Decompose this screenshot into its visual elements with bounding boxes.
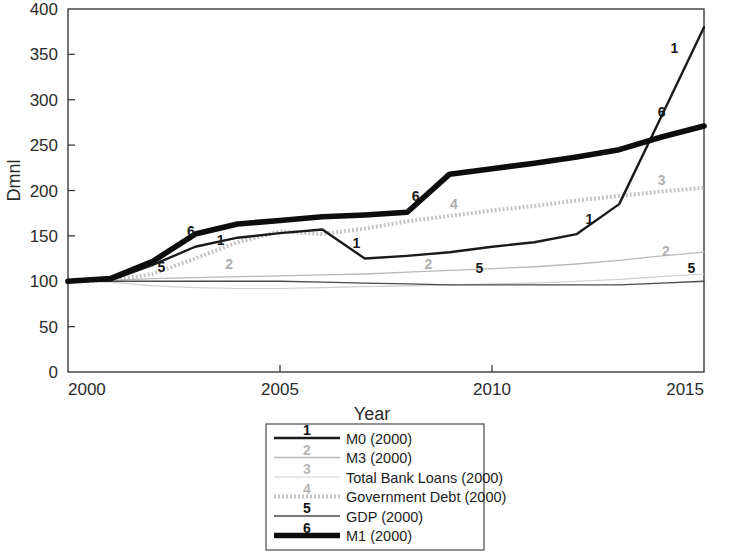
- inline-series-label-2: 2: [225, 256, 233, 272]
- plot-area: [68, 9, 704, 372]
- legend-label-1: M0 (2000): [346, 431, 412, 447]
- inline-series-label-2: 2: [425, 256, 433, 272]
- legend-number-4: 4: [303, 481, 311, 497]
- legend-number-5: 5: [303, 500, 311, 516]
- y-tick-label: 150: [30, 227, 58, 246]
- legend-number-6: 6: [303, 520, 311, 536]
- legend-number-3: 3: [303, 461, 311, 477]
- line-chart: 615264125136125 050100150200250300350400…: [0, 0, 741, 554]
- chart-figure: 615264125136125 050100150200250300350400…: [0, 0, 741, 554]
- legend-label-4: Government Debt (2000): [346, 489, 506, 505]
- legend-label-3: Total Bank Loans (2000): [346, 470, 503, 486]
- x-axis-title: Year: [354, 404, 390, 424]
- y-tick-label: 50: [39, 318, 58, 337]
- inline-series-label-4: 4: [450, 196, 458, 212]
- inline-series-label-6: 6: [187, 223, 195, 239]
- y-tick-label: 300: [30, 91, 58, 110]
- x-tick-label: 2015: [666, 380, 704, 399]
- inline-series-label-5: 5: [687, 260, 695, 276]
- y-axis-title: Dmnl: [4, 159, 24, 201]
- inline-series-label-5: 5: [475, 260, 483, 276]
- series-line-5: [68, 281, 704, 285]
- chart-legend: 1M0 (2000)2M3 (2000)3Total Bank Loans (2…: [266, 422, 506, 550]
- y-tick-label: 200: [30, 182, 58, 201]
- inline-series-label-1: 1: [670, 40, 678, 56]
- y-tick-label: 0: [49, 363, 58, 382]
- inline-series-label-6: 6: [412, 188, 420, 204]
- x-tick-label: 2010: [473, 380, 511, 399]
- legend-label-2: M3 (2000): [346, 450, 412, 466]
- legend-number-1: 1: [303, 422, 311, 438]
- x-tick-label: 2005: [261, 380, 299, 399]
- inline-series-label-1: 1: [586, 211, 594, 227]
- inline-series-label-1: 1: [217, 232, 225, 248]
- inline-series-label-3: 3: [658, 172, 666, 188]
- y-tick-label: 250: [30, 136, 58, 155]
- y-tick-label: 400: [30, 0, 58, 19]
- inline-series-label-1: 1: [352, 235, 360, 251]
- inline-series-label-6: 6: [658, 104, 666, 120]
- series-lines: [68, 27, 704, 288]
- y-tick-label: 350: [30, 45, 58, 64]
- legend-label-5: GDP (2000): [346, 509, 423, 525]
- inline-series-label-5: 5: [157, 259, 165, 275]
- inline-series-label-2: 2: [662, 243, 670, 259]
- plot-frame: [68, 9, 704, 372]
- x-tick-label: 2000: [68, 380, 106, 399]
- axis-labels: 0501001502002503003504002000200520102015…: [4, 0, 704, 424]
- y-tick-label: 100: [30, 272, 58, 291]
- legend-label-6: M1 (2000): [346, 528, 412, 544]
- legend-number-2: 2: [303, 442, 311, 458]
